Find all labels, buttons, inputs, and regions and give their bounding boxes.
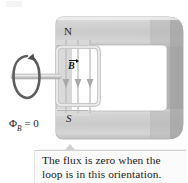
flux-subscript: B: [17, 124, 22, 133]
flux-symbol: Φ: [9, 117, 17, 129]
rotation-axle: [11, 74, 61, 79]
caption-box: The flux is zero when the loop is in thi…: [34, 150, 186, 183]
magnetic-flux-diagram: N S B ΦB = 0 The flux is zero when the l…: [0, 0, 188, 183]
south-pole-label: S: [66, 113, 72, 124]
flux-equation-label: ΦB = 0: [9, 118, 39, 132]
caption-line-2: loop is in this orientation.: [42, 168, 186, 182]
north-pole-label: N: [64, 26, 72, 37]
vector-arrow-icon: [69, 58, 78, 62]
caption-text: The flux is zero when the loop is in thi…: [42, 154, 186, 181]
magnet-yoke: [56, 17, 183, 139]
caption-line-1: The flux is zero when the: [42, 154, 186, 168]
scan-artifact: [6, 1, 22, 7]
magnetic-field-vector-label: B: [68, 58, 78, 71]
flux-equation-tail: = 0: [22, 117, 39, 129]
